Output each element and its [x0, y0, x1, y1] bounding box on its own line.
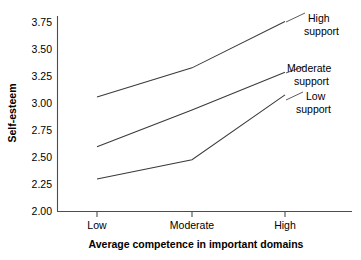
y-tick-label-3-00: 3.00 [32, 97, 53, 109]
x-axis-title: Average competence in important domains [89, 238, 304, 250]
series-line-moderate-support [97, 72, 285, 147]
y-tick-label-3-50: 3.50 [32, 43, 53, 55]
series-line-high-support [97, 21, 285, 97]
y-tick-label-2-00: 2.00 [32, 205, 53, 217]
series-label-low-line1: Low [306, 90, 326, 102]
chart-canvas: 3.75 3.50 3.25 3.00 2.75 2.50 2.25 2.00 … [0, 0, 361, 260]
leader-line-low [286, 92, 303, 100]
series-label-moderate-line1: Moderate [287, 62, 332, 74]
y-tick-label-2-25: 2.25 [32, 178, 53, 190]
leader-line-high [286, 13, 305, 22]
x-tick-label-low: Low [87, 219, 107, 231]
y-tick-label-2-75: 2.75 [32, 124, 53, 136]
series-label-high-line1: High [308, 12, 330, 24]
y-tick-label-3-25: 3.25 [32, 70, 53, 82]
y-tick-label-3-75: 3.75 [32, 16, 53, 28]
x-tick-label-high: High [274, 219, 296, 231]
series-label-high-line2: support [304, 25, 339, 37]
line-chart: 3.75 3.50 3.25 3.00 2.75 2.50 2.25 2.00 … [0, 0, 361, 260]
series-label-moderate-line2: support [294, 75, 329, 87]
y-tick-label-2-50: 2.50 [32, 151, 53, 163]
x-tick-label-moderate: Moderate [170, 219, 215, 231]
y-axis-title: Self-esteem [6, 84, 18, 143]
series-line-low-support [97, 95, 285, 179]
series-label-low-line2: support [296, 103, 331, 115]
